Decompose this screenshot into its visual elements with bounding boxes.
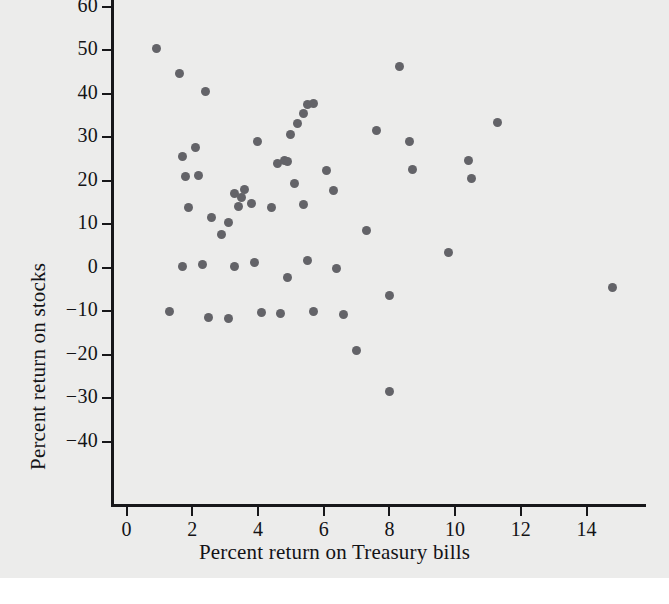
y-tick-mark [102,223,111,225]
data-point [352,346,361,355]
data-point [201,87,210,96]
x-tick-mark [323,507,325,516]
y-tick-label: 20 [20,168,98,191]
y-tick-mark [102,354,111,356]
data-point [385,291,394,300]
data-point [178,262,187,271]
data-point [293,119,302,128]
x-tick-label: 0 [97,518,157,541]
x-tick-mark [520,507,522,516]
data-point [299,109,308,118]
y-tick-mark [102,267,111,269]
y-tick-mark [102,180,111,182]
x-tick-label: 10 [425,518,485,541]
data-point [322,166,331,175]
data-point [204,313,213,322]
data-point [309,307,318,316]
x-tick-mark [257,507,259,516]
data-point [240,185,249,194]
data-point [332,264,341,273]
data-point [184,203,193,212]
scatterplot-figure: −40−30−20−100102030405060 02468101214 Pe… [0,0,669,604]
data-point [253,137,262,146]
data-point [329,186,338,195]
data-point [276,309,285,318]
y-axis-line [111,0,114,504]
data-point [175,69,184,78]
data-point [237,193,246,202]
data-point [608,283,617,292]
x-tick-label: 2 [162,518,222,541]
data-point [181,172,190,181]
data-point [286,130,295,139]
x-tick-mark [388,507,390,516]
y-tick-label: 40 [20,81,98,104]
y-tick-mark [102,397,111,399]
x-tick-label: 12 [491,518,551,541]
y-tick-mark [102,49,111,51]
x-axis-title: Percent return on Treasury bills [0,540,669,565]
data-point [198,260,207,269]
data-point [283,157,292,166]
data-point [385,387,394,396]
y-tick-mark [102,6,111,8]
data-point [217,230,226,239]
data-point [207,213,216,222]
data-point [299,200,308,209]
x-tick-label: 4 [228,518,288,541]
x-tick-label: 8 [359,518,419,541]
y-axis-title: Percent return on stocks [26,263,51,470]
data-point [395,62,404,71]
data-point [257,308,266,317]
data-point [194,171,203,180]
data-point [230,262,239,271]
data-point [178,152,187,161]
data-point [303,256,312,265]
y-tick-label: 10 [20,211,98,234]
y-tick-label: 30 [20,124,98,147]
data-point [247,199,256,208]
data-point [408,165,417,174]
data-point [493,118,502,127]
data-point [444,248,453,257]
data-point [152,44,161,53]
data-point [372,126,381,135]
data-point [267,203,276,212]
x-tick-mark [454,507,456,516]
data-point [464,156,473,165]
data-point [234,202,243,211]
data-point [224,314,233,323]
data-point [191,143,200,152]
y-tick-label: 50 [20,37,98,60]
data-point [283,273,292,282]
data-point [362,226,371,235]
data-point [309,99,318,108]
data-point [250,258,259,267]
x-tick-label: 14 [557,518,617,541]
y-tick-mark [102,310,111,312]
data-point [467,174,476,183]
x-tick-label: 6 [294,518,354,541]
data-point [165,307,174,316]
x-tick-mark [191,507,193,516]
y-tick-mark [102,136,111,138]
data-point [405,137,414,146]
x-tick-mark [126,507,128,516]
x-tick-mark [586,507,588,516]
y-tick-mark [102,441,111,443]
y-tick-mark [102,93,111,95]
plot-area: −40−30−20−100102030405060 02468101214 [0,0,669,578]
data-point [224,218,233,227]
y-tick-label: 60 [20,0,98,17]
data-point [339,310,348,319]
data-point [290,179,299,188]
